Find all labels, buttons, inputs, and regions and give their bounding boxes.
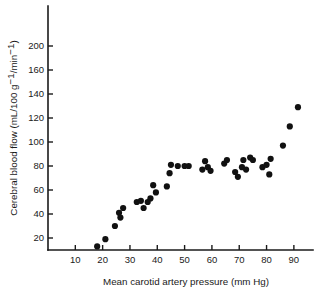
y-tick-label: 120 <box>28 112 44 123</box>
x-axis-ticks: 102030405060708090 <box>70 245 299 265</box>
y-axis-title-segment-1: Cerebral blood flow (mL/100 g <box>8 84 19 215</box>
y-tick-label: 140 <box>28 88 44 99</box>
x-tick-label: 10 <box>70 254 81 265</box>
x-tick-label: 60 <box>207 254 218 265</box>
x-tick-label: 20 <box>97 254 108 265</box>
figure-container: 20406080100120140160200 1020304050607080… <box>0 0 323 291</box>
data-point <box>280 143 286 149</box>
data-point <box>147 195 153 201</box>
data-point <box>175 163 181 169</box>
data-point <box>153 189 159 195</box>
x-tick-label: 90 <box>289 254 300 265</box>
y-tick-label: 60 <box>33 184 44 195</box>
data-point-layer <box>94 104 301 249</box>
data-point <box>243 167 249 173</box>
y-tick-label: 40 <box>33 208 44 219</box>
y-tick-label: 160 <box>28 64 44 75</box>
scatter-plot: 20406080100120140160200 1020304050607080… <box>0 0 323 291</box>
x-tick-label: 70 <box>234 254 245 265</box>
y-tick-label: 20 <box>33 232 44 243</box>
data-point <box>166 170 172 176</box>
y-tick-label: 80 <box>33 160 44 171</box>
data-point <box>207 168 213 174</box>
data-point <box>150 182 156 188</box>
data-point <box>120 205 126 211</box>
data-point <box>168 162 174 168</box>
data-point <box>250 157 256 163</box>
x-tick-label: 30 <box>125 254 136 265</box>
data-point <box>141 205 147 211</box>
data-point <box>240 157 246 163</box>
x-axis-title: Mean carotid artery pressure (mm Hg) <box>103 276 269 287</box>
y-axis-title-superscript-2: −1 <box>5 44 16 55</box>
y-tick-label: 200 <box>28 40 44 51</box>
y-axis-title-superscript-1: −1 <box>5 73 16 84</box>
data-point <box>117 215 123 221</box>
x-tick-label: 50 <box>179 254 190 265</box>
data-point <box>266 171 272 177</box>
x-tick-label: 40 <box>152 254 163 265</box>
data-point <box>235 174 241 180</box>
data-point <box>94 243 100 249</box>
data-point <box>186 163 192 169</box>
svg-text:Cerebral blood flow (mL/100 g−: Cerebral blood flow (mL/100 g−1/min−1) <box>5 40 19 215</box>
x-tick-label: 80 <box>261 254 272 265</box>
data-point <box>102 236 108 242</box>
data-point <box>199 167 205 173</box>
data-point <box>112 223 118 229</box>
y-axis-title-segment-3: ) <box>8 40 19 43</box>
data-point <box>295 104 301 110</box>
y-axis-title-segment-2: /min <box>8 55 19 74</box>
data-point <box>263 162 269 168</box>
data-point <box>164 183 170 189</box>
data-point <box>287 123 293 129</box>
data-point <box>202 158 208 164</box>
y-axis-ticks: 20406080100120140160200 <box>28 40 53 243</box>
data-point <box>138 198 144 204</box>
data-point <box>268 156 274 162</box>
y-tick-label: 100 <box>28 136 44 147</box>
data-point <box>224 157 230 163</box>
y-axis-title: Cerebral blood flow (mL/100 g−1/min−1) <box>5 40 19 215</box>
